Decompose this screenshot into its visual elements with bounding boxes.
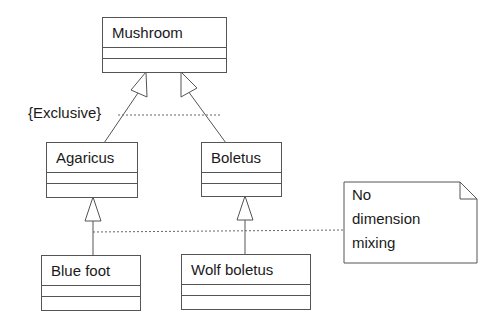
note-text[interactable]: No dimension mixing bbox=[352, 183, 420, 255]
attributes-compartment bbox=[42, 286, 140, 297]
class-name: Boletus bbox=[202, 143, 281, 173]
attributes-compartment bbox=[47, 173, 137, 184]
class-name: Mushroom bbox=[103, 18, 226, 48]
class-boletus[interactable]: Boletus bbox=[201, 142, 282, 197]
class-name: Wolf boletus bbox=[182, 255, 310, 285]
note-line: dimension bbox=[352, 207, 420, 231]
attributes-compartment bbox=[182, 285, 310, 296]
note-line: mixing bbox=[352, 231, 420, 255]
class-mushroom[interactable]: Mushroom bbox=[102, 17, 227, 73]
class-name: Blue foot bbox=[42, 256, 140, 286]
operations-compartment bbox=[42, 297, 140, 309]
generalization-boletus-mushroom bbox=[181, 72, 226, 143]
operations-compartment bbox=[202, 184, 281, 196]
class-bluefoot[interactable]: Blue foot bbox=[41, 255, 141, 311]
generalization-bluefoot-agaricus bbox=[85, 197, 101, 256]
generalization-agaricus-mushroom bbox=[104, 72, 147, 143]
note-anchor-line bbox=[93, 230, 344, 232]
operations-compartment bbox=[103, 59, 226, 71]
class-agaricus[interactable]: Agaricus bbox=[46, 142, 138, 198]
class-wolfboletus[interactable]: Wolf boletus bbox=[181, 254, 311, 310]
attributes-compartment bbox=[202, 173, 281, 184]
note-line: No bbox=[352, 183, 420, 207]
attributes-compartment bbox=[103, 48, 226, 59]
exclusive-constraint-label: {Exclusive} bbox=[28, 104, 101, 121]
generalization-wolfboletus-boletus bbox=[237, 196, 253, 256]
operations-compartment bbox=[182, 296, 310, 308]
operations-compartment bbox=[47, 184, 137, 196]
class-name: Agaricus bbox=[47, 143, 137, 173]
